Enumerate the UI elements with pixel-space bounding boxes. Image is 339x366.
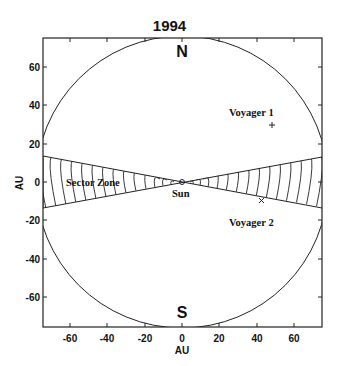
x-tick-label: 60 <box>288 333 300 344</box>
heliosphere-plot: -60 -40 -20 0 20 40 60 60 40 20 0 -20 -4… <box>0 0 339 366</box>
x-tick-label: -60 <box>63 333 78 344</box>
y-tick-label: -60 <box>26 292 41 303</box>
x-tick-label: 20 <box>213 333 225 344</box>
north-label: N <box>176 43 188 60</box>
y-tick-label: 20 <box>29 139 41 150</box>
voyager2-label: Voyager 2 <box>229 217 274 228</box>
x-tick-label: -20 <box>138 333 153 344</box>
current-sheet-arcs-right <box>190 153 322 209</box>
y-tick-label: -40 <box>26 254 41 265</box>
y-tick-label: 0 <box>34 177 40 188</box>
y-tick-label: 60 <box>29 62 41 73</box>
x-tick-label: 0 <box>179 333 185 344</box>
y-tick-label: -20 <box>26 215 41 226</box>
voyager1-label: Voyager 1 <box>229 107 274 118</box>
sun-label: Sun <box>172 188 190 199</box>
y-tick-label: 40 <box>29 100 41 111</box>
x-tick-label: -40 <box>100 333 115 344</box>
sector-zone-label: Sector Zone <box>66 177 120 188</box>
voyager2-marker <box>259 198 264 203</box>
voyager1-marker <box>269 122 275 128</box>
x-tick-label: 40 <box>251 333 263 344</box>
x-axis-label: AU <box>175 345 189 356</box>
south-label: S <box>177 304 188 321</box>
y-axis-label: AU <box>14 176 25 190</box>
